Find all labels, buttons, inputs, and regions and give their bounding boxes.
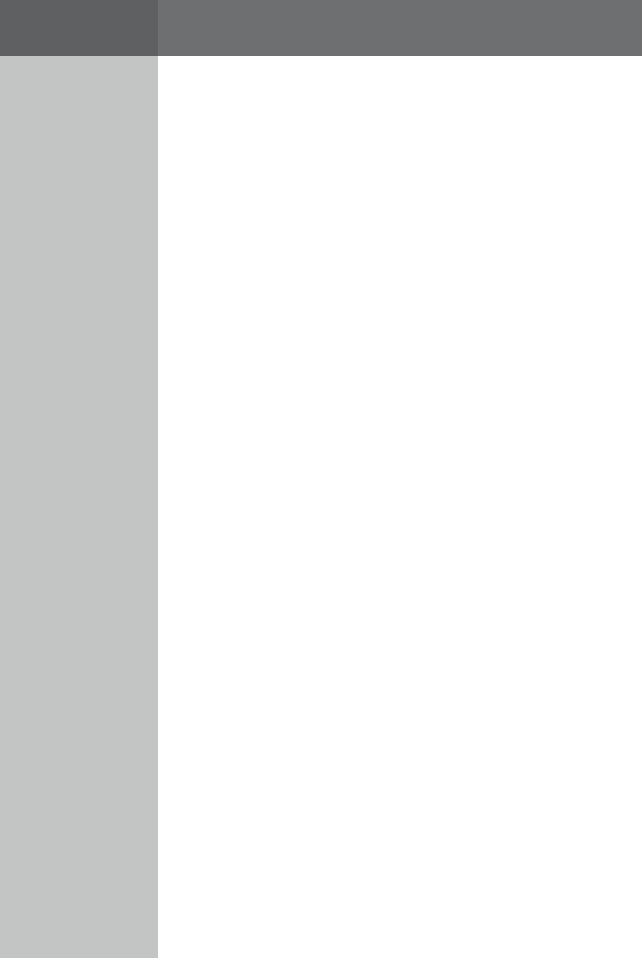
sidebar-nav — [0, 56, 158, 86]
titlebar-right-segment[interactable] — [158, 0, 642, 56]
titlebar-left-segment[interactable] — [0, 0, 158, 56]
content-area[interactable] — [158, 56, 642, 958]
body-area — [0, 56, 642, 958]
app-window — [0, 0, 642, 958]
titlebar — [0, 0, 642, 56]
sidebar[interactable] — [0, 56, 158, 958]
